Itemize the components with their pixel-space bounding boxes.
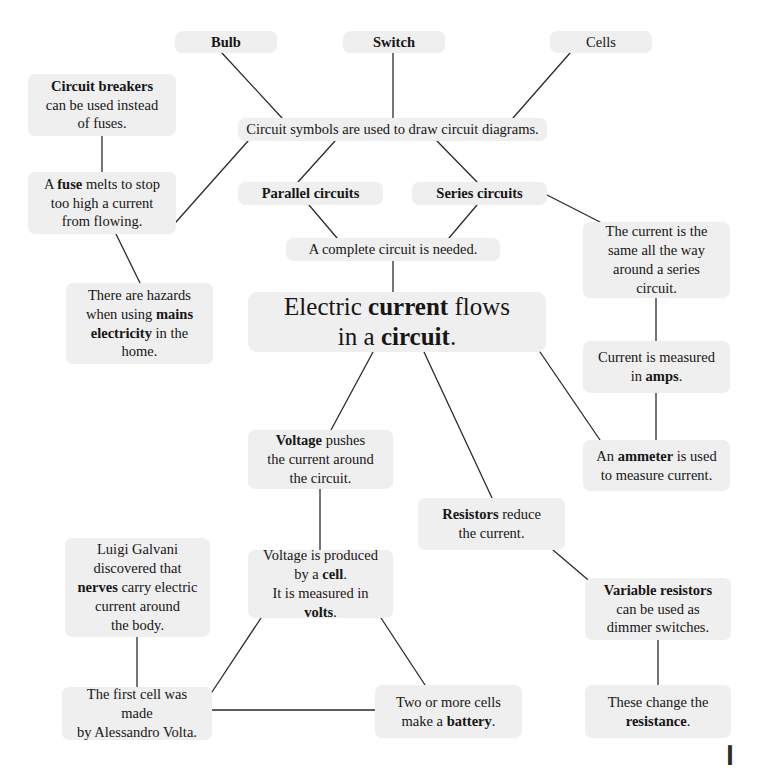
node-voltage-pushes-label: Voltage pushesthe current aroundthe circ… <box>256 431 385 488</box>
edge-series-to-current-same <box>547 195 600 222</box>
node-series-circuits-label: Series circuits <box>420 184 539 203</box>
node-first-cell-volta-label: The first cell was madeby Alessandro Vol… <box>70 685 204 742</box>
node-parallel-circuits-label: Parallel circuits <box>246 184 375 203</box>
node-variable-resistors-label: Variable resistorscan be used asdimmer s… <box>593 581 723 638</box>
node-ammeter-label: An ammeter is usedto measure current. <box>591 447 722 485</box>
node-resistors-label: Resistors reducethe current. <box>426 505 557 543</box>
node-voltage-produced-by-cell[interactable]: Voltage is producedby a cell.It is measu… <box>248 550 393 618</box>
node-ammeter[interactable]: An ammeter is usedto measure current. <box>583 440 730 491</box>
page-corner-mark: ❙ <box>722 744 738 763</box>
node-mains-hazards[interactable]: There are hazardswhen using mainselectri… <box>66 283 213 364</box>
node-luigi-galvani-label: Luigi Galvanidiscovered thatnerves carry… <box>73 540 202 634</box>
node-first-cell-volta[interactable]: The first cell was madeby Alessandro Vol… <box>62 687 212 740</box>
edge-series-to-complete-circuit <box>449 205 477 238</box>
node-cells-label: Cells <box>558 33 644 52</box>
node-circuit-symbols[interactable]: Circuit symbols are used to draw circuit… <box>238 118 547 141</box>
edge-bulb-to-circuit-symbols <box>222 53 282 118</box>
node-current-same-series[interactable]: The current is thesame all the wayaround… <box>583 222 730 298</box>
edge-circuit-symbols-to-fuse <box>176 141 248 222</box>
node-variable-resistors[interactable]: Variable resistorscan be used asdimmer s… <box>585 578 731 640</box>
node-bulb[interactable]: Bulb <box>175 31 277 53</box>
node-voltage-produced-by-cell-label: Voltage is producedby a cell.It is measu… <box>256 546 385 621</box>
node-cells[interactable]: Cells <box>550 31 652 53</box>
node-mains-hazards-label: There are hazardswhen using mainselectri… <box>74 286 205 361</box>
edge-fuse-to-hazards <box>116 234 140 283</box>
node-central-electric-current-label: Electric current flowsin a circuit. <box>256 292 538 353</box>
edge-central-to-voltage-pushes <box>331 352 373 430</box>
node-complete-circuit-label: A complete circuit is needed. <box>294 240 492 259</box>
node-bulb-label: Bulb <box>183 33 269 52</box>
node-switch[interactable]: Switch <box>343 31 445 53</box>
edge-central-to-resistors <box>424 352 492 498</box>
edge-voltage-cell-to-battery <box>381 618 425 685</box>
mind-map-canvas: BulbSwitchCellsCircuit breakerscan be us… <box>0 0 757 771</box>
node-these-change-resistance-label: These change theresistance. <box>593 693 723 731</box>
edge-circuit-symbols-to-parallel <box>298 141 335 182</box>
node-series-circuits[interactable]: Series circuits <box>412 182 547 205</box>
node-luigi-galvani[interactable]: Luigi Galvanidiscovered thatnerves carry… <box>65 538 210 637</box>
node-these-change-resistance[interactable]: These change theresistance. <box>585 685 731 738</box>
node-fuse[interactable]: A fuse melts to stoptoo high a currentfr… <box>28 172 176 234</box>
node-resistors[interactable]: Resistors reducethe current. <box>418 498 565 550</box>
node-central-electric-current[interactable]: Electric current flowsin a circuit. <box>248 292 546 352</box>
node-parallel-circuits[interactable]: Parallel circuits <box>238 182 383 205</box>
node-circuit-breakers-label: Circuit breakerscan be used insteadof fu… <box>36 77 168 134</box>
node-circuit-breakers[interactable]: Circuit breakerscan be used insteadof fu… <box>28 74 176 136</box>
node-circuit-symbols-label: Circuit symbols are used to draw circuit… <box>246 120 539 139</box>
node-current-same-series-label: The current is thesame all the wayaround… <box>591 222 722 297</box>
node-two-or-more-cells-battery[interactable]: Two or more cellsmake a battery. <box>375 685 522 738</box>
edge-circuit-symbols-to-series <box>437 141 477 182</box>
node-current-measured-amps-label: Current is measuredin amps. <box>591 348 722 386</box>
node-switch-label: Switch <box>351 33 437 52</box>
node-two-or-more-cells-battery-label: Two or more cellsmake a battery. <box>383 693 514 731</box>
node-fuse-label: A fuse melts to stoptoo high a currentfr… <box>36 175 168 232</box>
edge-voltage-cell-to-first-cell <box>212 618 261 692</box>
edge-cells-to-circuit-symbols <box>513 53 570 118</box>
node-complete-circuit[interactable]: A complete circuit is needed. <box>286 238 500 261</box>
edge-parallel-to-complete-circuit <box>309 205 337 238</box>
node-current-measured-amps[interactable]: Current is measuredin amps. <box>583 341 730 393</box>
node-voltage-pushes[interactable]: Voltage pushesthe current aroundthe circ… <box>248 430 393 489</box>
